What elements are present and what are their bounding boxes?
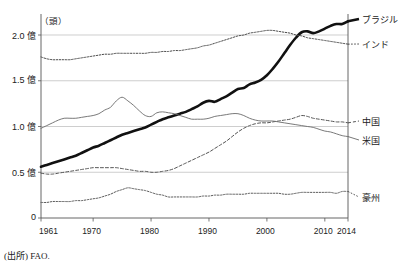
series-line-usa	[41, 97, 348, 136]
leader-usa	[348, 137, 359, 140]
series-label-usa: 米国	[362, 134, 380, 147]
series-line-brazil	[41, 21, 348, 166]
series-line-australia	[41, 188, 348, 203]
leader-australia	[348, 191, 359, 197]
x-axis-tick-label: 2010	[314, 226, 333, 236]
leader-brazil	[348, 19, 359, 21]
x-axis-tick-label: 1980	[140, 226, 159, 236]
x-axis-tick-label: 2014	[337, 226, 356, 236]
y-axis-tick-label: 1.5 億	[0, 73, 36, 86]
y-axis-tick-label: 1.0 億	[0, 120, 36, 133]
y-axis-tick-label: 2.0 億	[0, 29, 36, 42]
y-axis-tick-label: 0	[0, 212, 36, 222]
series-label-brazil: ブラジル	[362, 13, 398, 26]
x-axis-tick-label: 2000	[256, 226, 275, 236]
y-axis-tick-label: 0.5 億	[0, 166, 36, 179]
x-axis-tick-label: 1990	[198, 226, 217, 236]
series-label-china: 中国	[362, 115, 380, 128]
series-label-india: インド	[362, 38, 389, 51]
leader-china	[348, 121, 359, 123]
x-axis-tick-label: 1961	[39, 226, 58, 236]
x-axis-tick-label: 1970	[82, 226, 101, 236]
series-line-china	[41, 115, 348, 174]
source-note: (出所) FAO.	[4, 249, 50, 262]
series-label-australia: 豪州	[362, 191, 380, 204]
